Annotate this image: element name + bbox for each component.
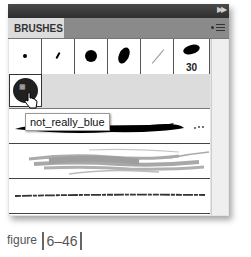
oval-calligraphic-brush-icon [182, 43, 201, 56]
double-chevron-right-icon[interactable]: ▶▶ [217, 5, 225, 14]
panel-titlebar[interactable]: ▶▶ [8, 4, 229, 18]
brush-list-scrollbar[interactable] [211, 39, 228, 215]
panel-menu-icon[interactable] [211, 22, 225, 34]
brush-small-round-dot[interactable] [9, 39, 42, 74]
brush-grid-row: 30 [9, 39, 210, 75]
brushes-panel: ▶▶ BRUSHES [8, 4, 229, 216]
divider [80, 232, 82, 250]
figure-caption: figure 6–46 [7, 232, 84, 250]
dot-brush-icon [23, 54, 27, 58]
brush-oval-angled-blot[interactable] [108, 39, 141, 74]
divider [42, 232, 44, 250]
brush-glyph-icon: ▦ [19, 83, 26, 91]
brush-thin-angled-stroke[interactable] [42, 39, 75, 74]
panel-tabstrip: BRUSHES [8, 18, 229, 39]
selected-brush-row: ▦ [9, 74, 210, 109]
brush-thin-diagonal-line[interactable] [141, 39, 174, 74]
brush-name-tooltip: not_really_blue [25, 113, 110, 131]
art-brush-gray-chalk[interactable] [9, 144, 210, 179]
charcoal-line-icon [9, 179, 210, 213]
brush-size-label: 30 [174, 62, 209, 73]
art-brush-charcoal-line[interactable] [9, 179, 210, 214]
diagonal-line-brush-icon [152, 49, 164, 63]
thin-stroke-brush-icon [55, 52, 60, 59]
brush-oval-calligraphic[interactable]: 30 [174, 39, 210, 74]
brush-round-blot[interactable] [75, 39, 108, 74]
pointing-hand-cursor-icon [24, 92, 38, 114]
round-blot-brush-icon [85, 50, 97, 62]
figure-number: 6–46 [46, 233, 77, 249]
figure-label: figure [7, 233, 37, 247]
oval-blot-brush-icon [116, 46, 132, 66]
tab-brushes[interactable]: BRUSHES [8, 18, 64, 38]
chalk-stroke-icon [9, 144, 210, 178]
